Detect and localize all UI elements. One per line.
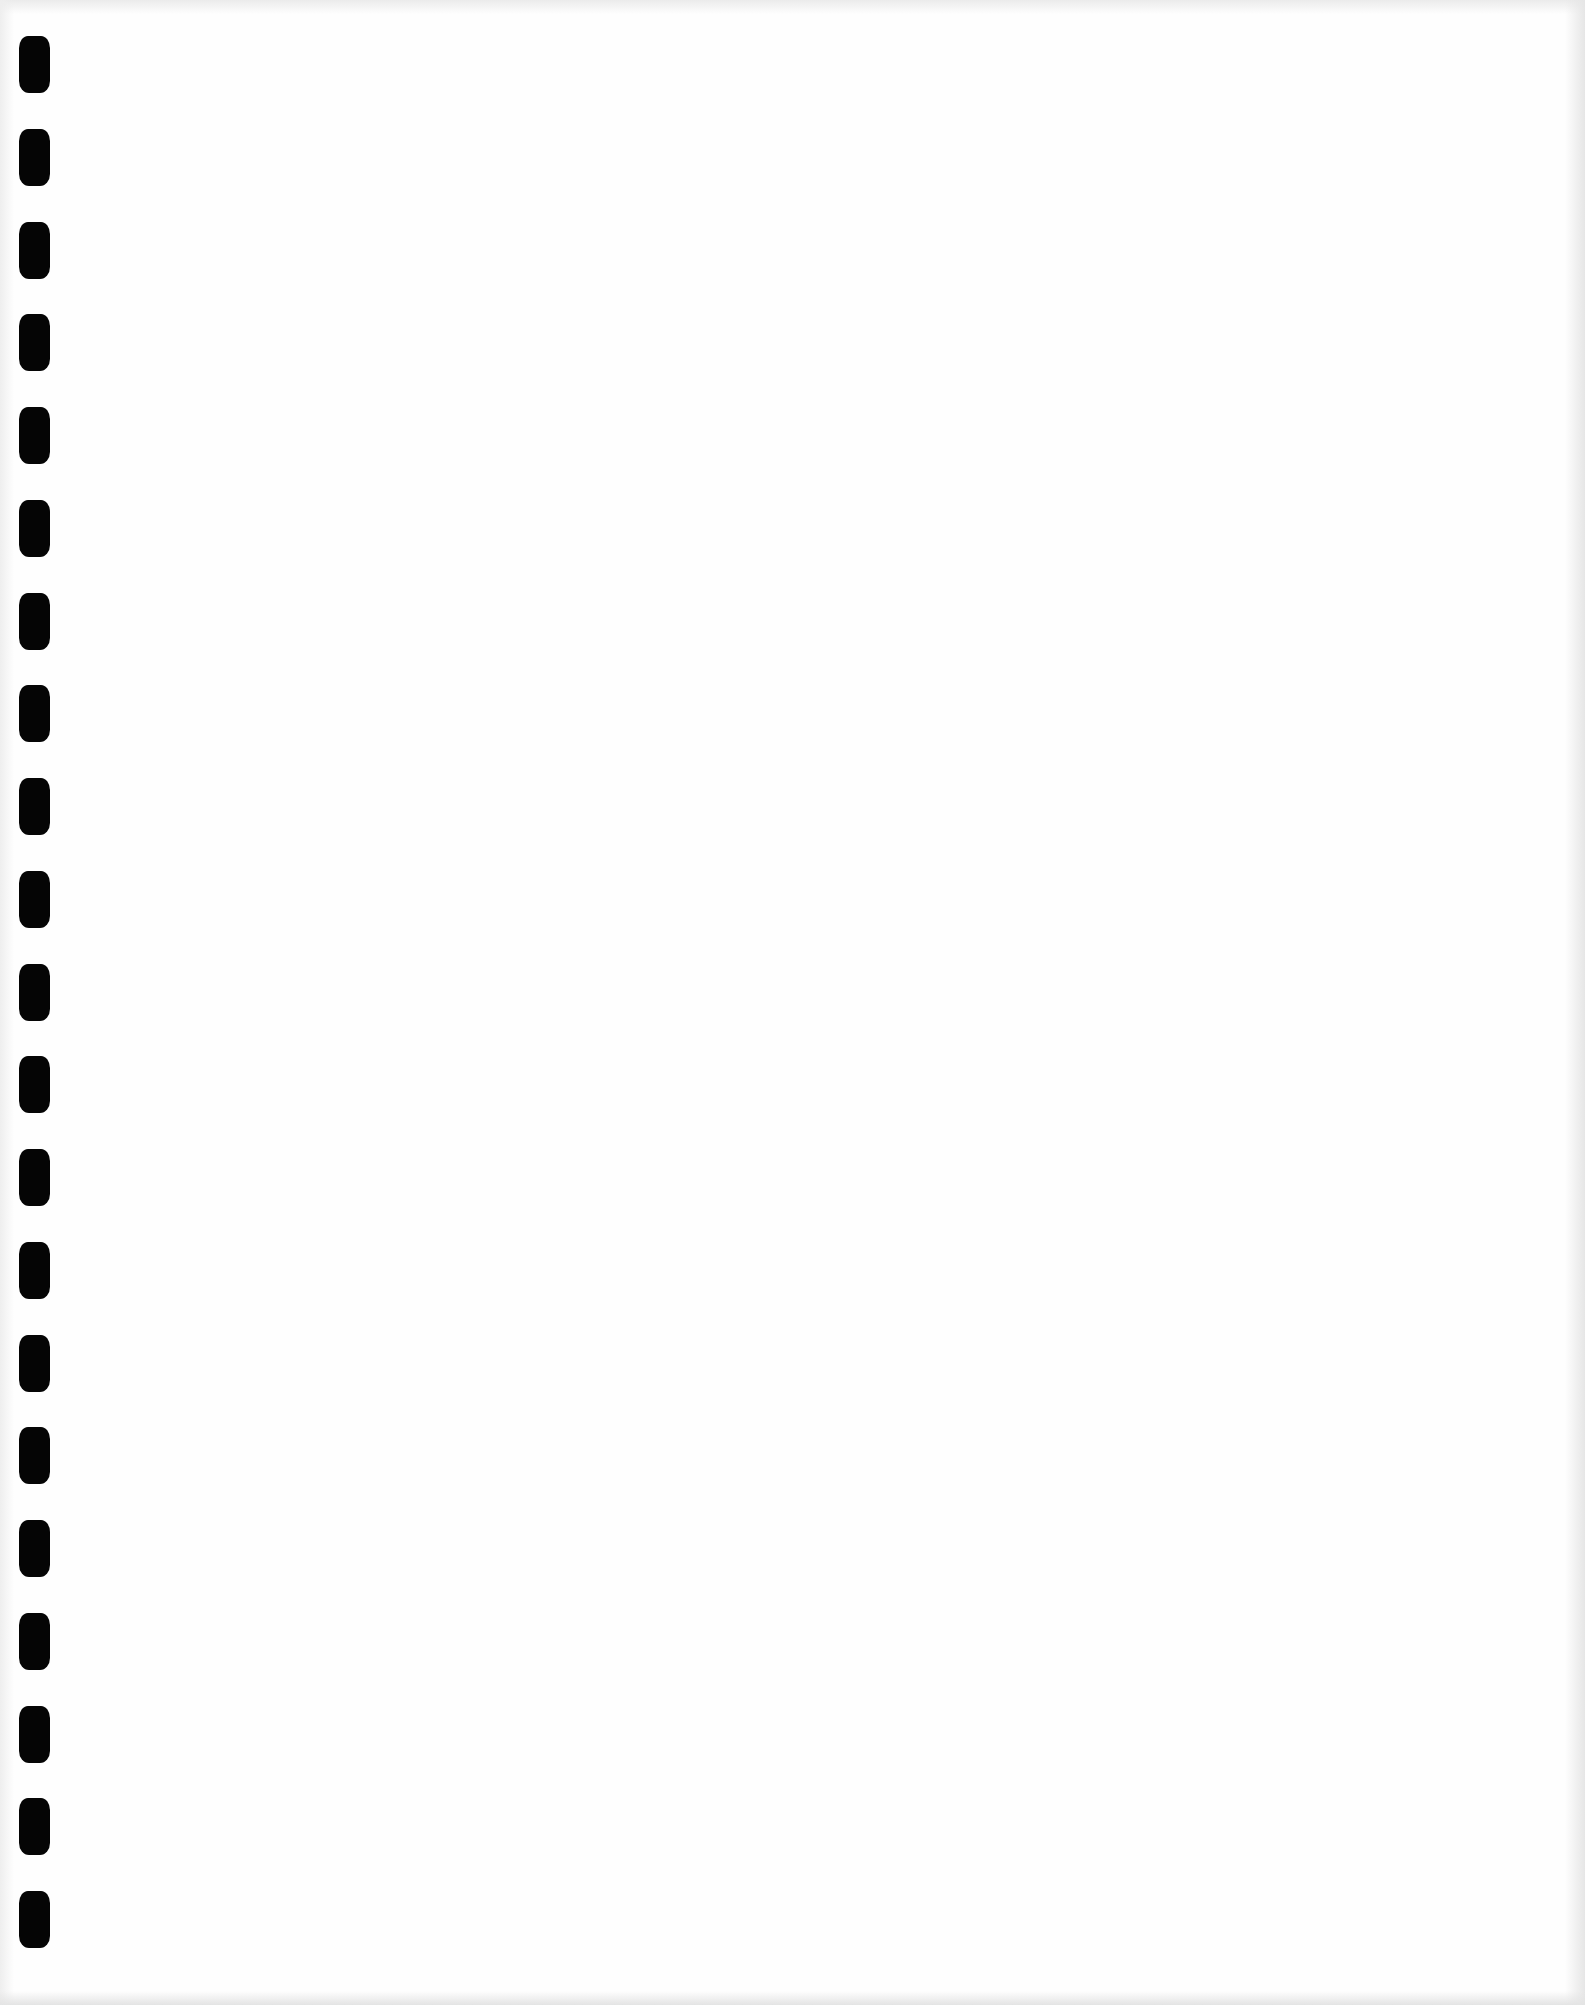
blank-page xyxy=(0,0,1585,2005)
binding-hole xyxy=(19,1335,50,1392)
binding-hole xyxy=(19,222,50,279)
binding-hole xyxy=(19,500,50,557)
binding-hole xyxy=(19,1891,50,1948)
binding-hole xyxy=(19,1520,50,1577)
page-edge-shadow-bottom xyxy=(0,1991,1585,2005)
page-edge-shadow-top xyxy=(0,0,1585,14)
binding-hole xyxy=(19,1706,50,1763)
binding-hole xyxy=(19,778,50,835)
binding-hole xyxy=(19,1613,50,1670)
binding-hole xyxy=(19,1056,50,1113)
binding-hole xyxy=(19,1242,50,1299)
binding-hole xyxy=(19,129,50,186)
binding-hole xyxy=(19,36,50,93)
binding-hole xyxy=(19,871,50,928)
page-edge-shadow-right xyxy=(1565,0,1585,2005)
binding-hole xyxy=(19,685,50,742)
binding-hole xyxy=(19,314,50,371)
binding-hole xyxy=(19,1798,50,1855)
binding-hole xyxy=(19,964,50,1021)
binding-hole xyxy=(19,1149,50,1206)
binding-hole xyxy=(19,1427,50,1484)
binding-hole xyxy=(19,593,50,650)
binding-holes xyxy=(0,0,80,2005)
binding-hole xyxy=(19,407,50,464)
